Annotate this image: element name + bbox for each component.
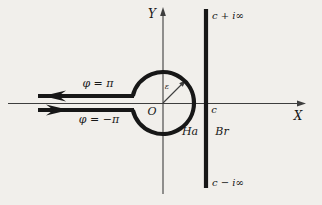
c-point-label: c	[211, 105, 217, 115]
origin-label: O	[147, 106, 156, 117]
bromwich-contour-label: Br	[215, 126, 228, 137]
y-axis-arrowhead-icon	[160, 7, 166, 16]
hankel-contour-label: Ha	[182, 126, 198, 137]
complex-plane-contour-figure: Y X O φ = π φ = −π ε c c + i∞ c − i∞ Ha …	[0, 0, 322, 205]
circle-radius-label: ε	[165, 83, 169, 91]
phi-pi-upper-label: φ = π	[82, 78, 113, 89]
x-axis-arrowhead-icon	[297, 101, 306, 107]
contour-diagram-canvas	[0, 0, 322, 205]
x-axis-label: X	[294, 110, 303, 122]
y-axis-label: Y	[148, 8, 156, 20]
c-plus-i-infinity-label: c + i∞	[212, 11, 244, 21]
phi-minus-pi-lower-label: φ = −π	[79, 114, 119, 125]
c-minus-i-infinity-label: c − i∞	[212, 178, 244, 188]
